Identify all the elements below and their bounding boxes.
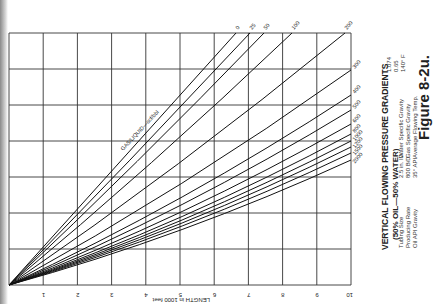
- curve-label: 500: [351, 99, 362, 110]
- gradient-curve-50: [9, 33, 264, 285]
- condition-value-temp: 140° F: [400, 54, 406, 72]
- condition-label-rate: Producing Rate: [405, 207, 411, 248]
- x-tick-label: 6: [212, 292, 216, 298]
- curve-label: 200: [343, 20, 354, 31]
- x-tick-label: 7: [246, 292, 250, 298]
- curve-labels: 0255010020030040050060080010001200150020…: [234, 20, 363, 165]
- condition-value-gas-sg: 0.65: [393, 60, 399, 72]
- x-tick-label: 2: [75, 292, 79, 298]
- curve-label: 25: [248, 22, 257, 31]
- x-tick-label: 10: [346, 292, 353, 298]
- condition-label-gas-sg: Gas Specific Gravity: [405, 104, 411, 158]
- curve-label: 100: [290, 20, 301, 31]
- x-tick-label: 3: [110, 292, 114, 298]
- curve-label: 600: [351, 113, 362, 124]
- x-tick-label: 4: [144, 292, 148, 298]
- curve-label: 0: [234, 24, 241, 30]
- condition-label-water-sg: Water Specific Gravity: [398, 99, 404, 158]
- curve-label: 50: [262, 22, 271, 31]
- curve-label: 400: [351, 84, 362, 95]
- figure-label: Figure 8-2u.: [415, 55, 432, 140]
- x-tick-label: 8: [281, 292, 285, 298]
- condition-label-tubing: Tubing Size: [398, 217, 404, 248]
- condition-value-rate: 800 B/D: [405, 156, 411, 178]
- x-axis-label: LENGTH in 1000 feet: [152, 297, 210, 303]
- chart-grid: [9, 33, 351, 285]
- x-tick-label: 9: [315, 292, 319, 298]
- condition-label-api: Oil API Gravity: [412, 209, 418, 248]
- chart-title: VERTICAL FLOWING PRESSURE GRADIENTS: [380, 64, 390, 250]
- x-tick-label: 1: [41, 292, 45, 298]
- condition-value-api: 35° API: [412, 158, 418, 178]
- curve-label: 300: [351, 59, 362, 70]
- gradient-curve-100: [9, 33, 292, 285]
- gradient-curve-200: [9, 33, 345, 285]
- condition-value-water-sg: 1.074: [386, 57, 392, 72]
